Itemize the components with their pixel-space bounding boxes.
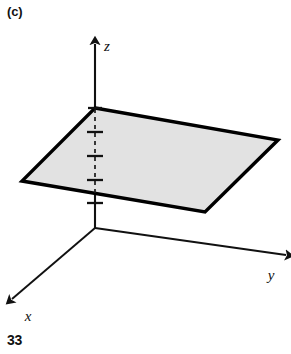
page-number: 33	[7, 333, 22, 347]
axis-y-line	[95, 228, 286, 255]
axis-x	[12, 228, 95, 299]
figure-container: (c)	[0, 0, 291, 354]
axis-x-line	[12, 228, 95, 299]
horizontal-plane-surface	[22, 108, 278, 212]
axis-label-x: x	[24, 308, 32, 324]
axis-y	[95, 228, 286, 255]
axis-label-y: y	[266, 267, 275, 283]
coordinate-plane-diagram: z y x	[0, 0, 291, 354]
axis-label-z: z	[103, 38, 110, 54]
